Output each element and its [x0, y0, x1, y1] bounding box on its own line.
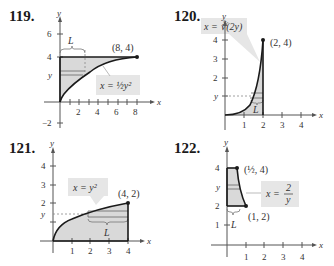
equation-label: x = ½y² — [99, 80, 132, 91]
graph-122: x = 2 y x y 1 2 3 4 4 2 1 y L (½, 4) (1 — [167, 133, 334, 266]
svg-text:3: 3 — [280, 120, 285, 130]
endpoint — [135, 55, 139, 59]
svg-text:6: 6 — [47, 29, 52, 39]
length-brace — [60, 46, 85, 53]
svg-text:2: 2 — [286, 182, 291, 193]
svg-text:2: 2 — [262, 252, 267, 262]
svg-text:3: 3 — [281, 252, 286, 262]
endpoint — [126, 201, 130, 205]
svg-text:L: L — [252, 104, 259, 115]
svg-text:1: 1 — [244, 252, 249, 262]
svg-text:y: y — [56, 8, 61, 18]
point-label: (4, 2) — [118, 188, 140, 200]
svg-text:x: x — [156, 97, 161, 107]
graph-121: x = y² x y 1 2 3 4 4 3 2 y L (4, 2) — [0, 133, 167, 266]
svg-text:4: 4 — [47, 52, 52, 62]
svg-text:3: 3 — [41, 180, 46, 190]
point-label-top: (½, 4) — [244, 164, 268, 176]
svg-text:x: x — [318, 110, 323, 120]
svg-text:2: 2 — [88, 246, 93, 256]
point-label-bottom: (1, 2) — [248, 211, 270, 223]
svg-text:y: y — [285, 194, 291, 205]
svg-text:1: 1 — [242, 120, 247, 130]
svg-text:2: 2 — [213, 73, 218, 83]
svg-text:4: 4 — [215, 163, 220, 173]
svg-text:y: y — [213, 91, 218, 101]
equation-label: x = ∛(2y) — [203, 20, 243, 33]
length-brace — [227, 209, 240, 215]
svg-text:y: y — [49, 138, 54, 148]
svg-text:x: x — [318, 240, 323, 250]
svg-text:x =: x = — [265, 188, 280, 199]
svg-text:1: 1 — [70, 246, 75, 256]
point-label: (2, 4) — [270, 37, 292, 49]
svg-text:6: 6 — [114, 107, 119, 117]
svg-text:4: 4 — [95, 107, 100, 117]
svg-text:4: 4 — [126, 246, 131, 256]
svg-text:y: y — [47, 70, 52, 80]
svg-text:2: 2 — [41, 198, 46, 208]
svg-text:−2: −2 — [42, 118, 52, 128]
svg-text:L: L — [230, 219, 237, 230]
svg-text:8: 8 — [133, 107, 138, 117]
svg-text:y: y — [223, 137, 228, 147]
svg-text:4: 4 — [213, 35, 218, 45]
equation-label: x = y² — [72, 182, 98, 193]
svg-text:y: y — [215, 182, 220, 192]
svg-text:3: 3 — [107, 246, 112, 256]
graph-119: x = ½y² x y 2 4 6 8 6 4 −2 y L — [0, 0, 167, 133]
svg-text:x: x — [146, 236, 151, 246]
endpoint-bottom — [244, 204, 248, 208]
svg-text:L: L — [103, 227, 110, 238]
svg-text:L: L — [67, 35, 74, 46]
svg-text:4: 4 — [299, 120, 304, 130]
svg-text:2: 2 — [76, 107, 81, 117]
point-label: (8, 4) — [112, 42, 134, 54]
svg-text:4: 4 — [300, 252, 305, 262]
svg-text:2: 2 — [215, 201, 220, 211]
endpoint-top — [235, 166, 239, 170]
svg-text:y: y — [221, 11, 226, 21]
svg-text:1: 1 — [215, 220, 220, 230]
svg-text:3: 3 — [213, 54, 218, 64]
svg-text:4: 4 — [41, 161, 46, 171]
endpoint — [261, 38, 265, 42]
svg-text:y: y — [40, 209, 45, 219]
graph-120: x = ∛(2y) x y 1 2 3 4 4 3 2 y L (2, 4) — [167, 0, 334, 133]
svg-text:2: 2 — [261, 120, 266, 130]
